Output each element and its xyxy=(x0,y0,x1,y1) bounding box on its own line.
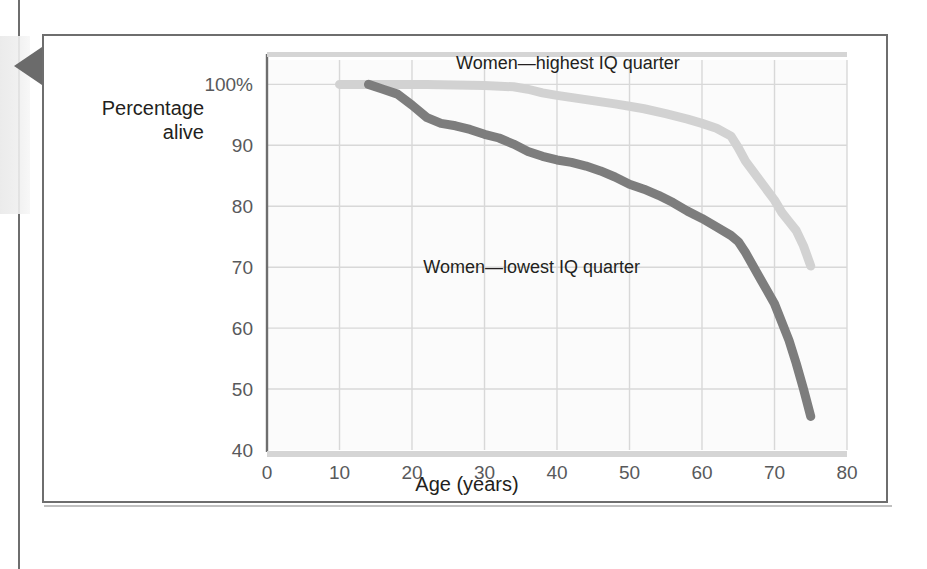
left-triangle-marker-icon xyxy=(14,47,42,85)
x-tick-label: 80 xyxy=(836,462,857,483)
y-tick-label: 100% xyxy=(204,74,253,95)
survival-line-chart: 405060708090100% 01020304050607080 Women… xyxy=(44,36,890,505)
x-tick-label: 40 xyxy=(546,462,567,483)
y-axis-caption-line2: alive xyxy=(163,121,204,143)
figure-frame: 405060708090100% 01020304050607080 Women… xyxy=(42,34,888,503)
x-tick-label: 0 xyxy=(262,462,273,483)
y-tick-label: 60 xyxy=(232,318,253,339)
chart-area: 405060708090100% 01020304050607080 Women… xyxy=(44,36,890,505)
figure-frame-shadow xyxy=(44,505,892,507)
y-tick-label: 90 xyxy=(232,135,253,156)
x-tick-label: 60 xyxy=(691,462,712,483)
y-axis-tick-labels: 405060708090100% xyxy=(204,74,253,461)
x-tick-label: 50 xyxy=(619,462,640,483)
y-axis-caption-line1: Percentage xyxy=(102,97,204,119)
y-tick-label: 80 xyxy=(232,196,253,217)
x-axis-tick-labels: 01020304050607080 xyxy=(262,462,858,483)
y-tick-label: 50 xyxy=(232,379,253,400)
series-annotation-0: Women—highest IQ quarter xyxy=(456,53,680,73)
x-tick-label: 70 xyxy=(764,462,785,483)
y-tick-label: 40 xyxy=(232,440,253,461)
x-tick-label: 10 xyxy=(329,462,350,483)
series-annotation-1: Women—lowest IQ quarter xyxy=(423,257,640,277)
x-axis-title: Age (years) xyxy=(415,473,518,495)
y-tick-label: 70 xyxy=(232,257,253,278)
